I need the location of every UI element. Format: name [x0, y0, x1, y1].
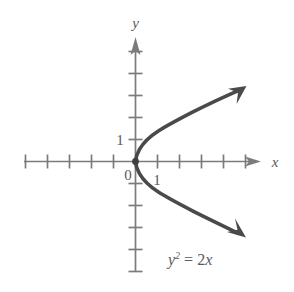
equation-annotation: y2 = 2x — [166, 250, 212, 269]
svg-text:y2 = 2x: y2 = 2x — [166, 250, 212, 269]
y-unit-tick-label: 1 — [116, 132, 124, 148]
axes-group — [24, 44, 254, 272]
equation-operator: = 2 — [180, 251, 205, 268]
origin-label: 0 — [124, 167, 132, 183]
origin-vertex-dot — [132, 158, 139, 165]
equation-variable: x — [204, 251, 212, 268]
parabola-upper-branch — [136, 90, 241, 162]
x-axis-label: x — [271, 154, 279, 170]
graph-canvas: y x 0 1 1 y2 = 2x — [0, 0, 294, 292]
y-axis-label: y — [130, 15, 139, 31]
parabola-figure: y x 0 1 1 y2 = 2x — [0, 0, 294, 292]
parabola-lower-branch — [136, 162, 239, 234]
x-unit-tick-label: 1 — [153, 172, 161, 188]
